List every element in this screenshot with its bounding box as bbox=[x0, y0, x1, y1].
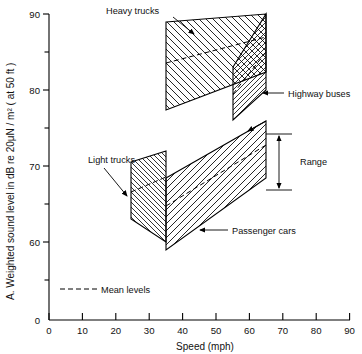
x-tick-label-50: 50 bbox=[211, 325, 222, 336]
band-light-trucks bbox=[131, 151, 166, 242]
y-tick-label-60: 60 bbox=[29, 237, 40, 248]
annotation-passenger-cars-label: Passenger cars bbox=[232, 226, 296, 236]
sound-level-vs-speed-chart: 90 80 70 60 0 10 20 30 40 50 60 70 80 90… bbox=[0, 0, 362, 354]
legend-mean-levels: Mean levels bbox=[60, 285, 150, 295]
annotation-range: Range bbox=[266, 134, 327, 190]
annotation-range-label: Range bbox=[300, 157, 327, 167]
legend-mean-levels-label: Mean levels bbox=[101, 285, 150, 295]
annotation-highway-buses-label: Highway buses bbox=[288, 89, 351, 99]
y-tick-label-80: 80 bbox=[29, 85, 40, 96]
x-tick-label-20: 20 bbox=[110, 325, 121, 336]
x-tick-label-10: 10 bbox=[77, 325, 88, 336]
x-tick-label-70: 70 bbox=[277, 325, 288, 336]
y-origin-label: 0 bbox=[35, 315, 40, 326]
y-tick-label-90: 90 bbox=[29, 9, 40, 20]
x-axis-ticks bbox=[49, 313, 350, 320]
x-tick-label-0: 0 bbox=[46, 325, 51, 336]
x-axis-title: Speed (mph) bbox=[176, 341, 234, 352]
chart-root: 90 80 70 60 0 10 20 30 40 50 60 70 80 90… bbox=[0, 0, 362, 354]
x-tick-label-40: 40 bbox=[177, 325, 188, 336]
x-tick-label-80: 80 bbox=[311, 325, 322, 336]
annotation-light-trucks-leader bbox=[104, 168, 127, 196]
y-axis-title: A. Weighted sound level in dB re 20μN / … bbox=[5, 63, 16, 300]
y-tick-label-70: 70 bbox=[29, 161, 40, 172]
annotation-light-trucks-label: Light trucks bbox=[88, 155, 135, 165]
annotation-heavy-trucks-label: Heavy trucks bbox=[106, 6, 160, 16]
x-tick-label-60: 60 bbox=[244, 325, 255, 336]
x-tick-label-30: 30 bbox=[144, 325, 155, 336]
x-tick-label-90: 90 bbox=[344, 325, 355, 336]
